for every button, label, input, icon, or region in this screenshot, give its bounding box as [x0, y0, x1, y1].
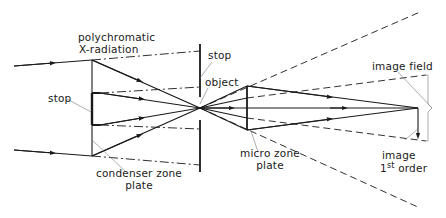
label-stop-center: stop: [208, 50, 231, 61]
label-x-radiation: X-radiation: [79, 44, 139, 55]
label-image-order: 1st order: [380, 163, 427, 174]
order-superscript: st: [387, 161, 395, 170]
label-condenser-zone: condenser zone: [84, 168, 194, 179]
zone-plate-microscope-diagram: polychromatic X-radiation stop condenser…: [0, 0, 446, 218]
label-micro-zone: micro zone: [220, 148, 320, 159]
label-polychromatic: polychromatic: [78, 32, 155, 43]
image-field-bracket: [426, 75, 432, 141]
order-number: 1: [380, 162, 387, 174]
label-object: object: [205, 77, 239, 88]
label-image-field: image field: [372, 61, 433, 72]
order-word: order: [398, 162, 427, 174]
label-stop-left: stop: [48, 93, 71, 104]
label-micro-plate: plate: [220, 160, 320, 171]
label-condenser-plate: plate: [84, 180, 194, 191]
label-image: image: [382, 150, 416, 161]
optical-path-drawing: [0, 0, 446, 218]
